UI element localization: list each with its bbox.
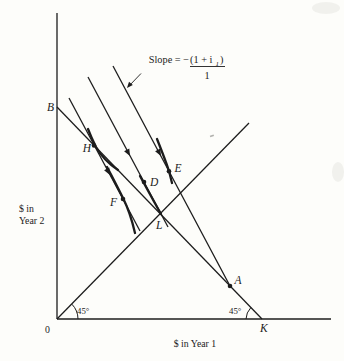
point-label-A: A: [234, 274, 243, 286]
point-label-B: B: [47, 101, 54, 113]
slope-annotation-prefix: Slope = −: [149, 54, 189, 65]
point-label-K: K: [259, 322, 269, 334]
angle-arc-K: [246, 308, 251, 320]
market-line-3: [113, 66, 230, 286]
slope-annotation-denominator: 1: [204, 70, 209, 81]
scan-smudge: [312, 2, 340, 14]
point-dot-A: [228, 284, 233, 289]
point-label-F: F: [109, 196, 118, 208]
print-speck: [210, 134, 214, 137]
point-label-D: D: [149, 176, 159, 188]
slope-annotation-numerator-close: ): [220, 54, 223, 66]
point-dot-E: [167, 169, 172, 174]
point-dot-F: [121, 197, 126, 202]
indifference-curve-at-E: [157, 139, 172, 183]
slope-annotation-numerator: (1 + i: [190, 54, 213, 66]
scan-smudge: [332, 162, 344, 182]
textbook-figure-page: Slope = − (1 + i 1 ) 1 B H F D E L A K 4…: [0, 0, 344, 361]
indifference-curve-at-H: [88, 129, 118, 170]
y-axis-label-line1: $ in: [19, 203, 34, 214]
fisher-intertemporal-diagram: Slope = − (1 + i 1 ) 1 B H F D E L A K 4…: [0, 0, 344, 361]
angle-label-K: 45°: [229, 306, 242, 316]
point-label-E: E: [174, 162, 182, 174]
point-label-L: L: [155, 219, 162, 231]
origin-label: 0: [45, 324, 50, 335]
point-dot-D: [142, 180, 147, 185]
angle-label-origin: 45°: [77, 306, 90, 316]
point-label-H: H: [82, 142, 92, 154]
x-axis-label: $ in Year 1: [174, 338, 217, 349]
y-axis-label-line2: Year 2: [19, 215, 45, 226]
point-dot-H: [92, 143, 97, 148]
